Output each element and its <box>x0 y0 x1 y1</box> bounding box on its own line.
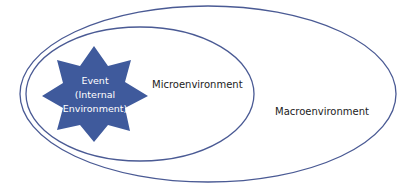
microenvironment-label: Microenvironment <box>152 79 243 90</box>
event-label-line-1: Event <box>55 74 135 88</box>
event-label: Event (Internal Environment) <box>55 74 135 116</box>
macroenvironment-label: Macroenvironment <box>275 106 369 117</box>
event-label-line-3: Environment) <box>55 102 135 116</box>
event-label-line-2: (Internal <box>55 88 135 102</box>
